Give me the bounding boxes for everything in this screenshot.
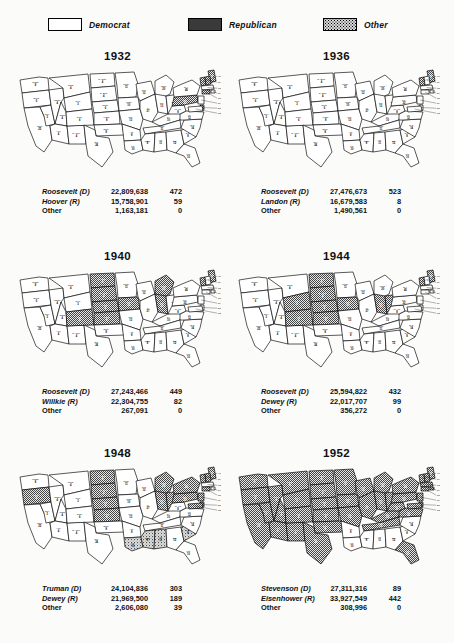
results-row: Landon (R)16,679,5838 [233, 197, 440, 207]
state-label-nj: N.J. 16 [218, 499, 221, 502]
state-label-nh: N.H. 4 [218, 81, 221, 84]
candidate-name: Other [233, 206, 307, 216]
legend-label-democrat: Democrat [89, 20, 130, 30]
results-table: Roosevelt (D)27,476,673523Landon (R)16,6… [233, 187, 440, 216]
electoral-vote: 0 [148, 206, 194, 216]
popular-vote: 27,243,466 [88, 387, 148, 397]
map-container: Wash.8Oreg.6Calif.25Nev.3Idaho4Mont.4Wyo… [233, 64, 440, 187]
state-label-de: Del. 3 [437, 504, 440, 507]
electoral-vote: 0 [367, 603, 413, 613]
results-table: Roosevelt (D)25,594,822432Dewey (R)22,01… [233, 387, 440, 416]
state-label-vt: Vt. 3 [218, 472, 221, 475]
electoral-vote: 89 [367, 584, 413, 594]
state-label-nj: N.J. 16 [437, 102, 440, 105]
results-row: Stevenson (D)27,311,31689 [233, 584, 440, 594]
popular-vote: 356,272 [307, 406, 367, 416]
popular-vote: 27,476,673 [307, 187, 367, 197]
state-label-ri: R.I. 4 [218, 489, 221, 492]
candidate-name: Roosevelt (D) [233, 187, 307, 197]
state-label-vt: Vt. 3 [218, 275, 221, 278]
electoral-vote: 82 [148, 397, 194, 407]
candidate-name: Dewey (R) [14, 594, 88, 604]
candidate-name: Other [14, 406, 88, 416]
electoral-vote: 8 [367, 197, 413, 207]
popular-vote: 22,304,755 [88, 397, 148, 407]
election-year-title: 1940 [14, 250, 221, 262]
state-label-ri: R.I. 4 [437, 92, 440, 95]
election-year-title: 1952 [233, 447, 440, 459]
popular-vote: 1,490,561 [307, 206, 367, 216]
legend: Democrat Republican Other [0, 18, 454, 40]
election-map: Wash.8Oreg.6Calif.25Nev.3Idaho4Mont.4Wyo… [14, 264, 221, 387]
electoral-vote: 0 [367, 206, 413, 216]
popular-vote: 308,996 [307, 603, 367, 613]
state-label-md: Md. 8 [218, 312, 221, 315]
state-label-ri: R.I. 4 [437, 489, 440, 492]
electoral-vote: 442 [367, 594, 413, 604]
results-row: Hoover (R)15,758,90159 [14, 197, 221, 207]
results-row: Truman (D)24,104,836303 [14, 584, 221, 594]
state-label-de: Del. 3 [218, 307, 221, 310]
candidate-name: Other [14, 206, 88, 216]
candidate-name: Willkie (R) [14, 397, 88, 407]
map-container: Wash.8Oreg.6Calif.25Nev.3Idaho4Mont.4Wyo… [233, 264, 440, 387]
state-az [269, 124, 288, 144]
state-label-nh: N.H. 4 [218, 478, 221, 481]
election-year-title: 1948 [14, 447, 221, 459]
electoral-vote: 99 [367, 397, 413, 407]
election-map: Wash.8Oreg.6Calif.25Nev.3Idaho4Mont.4Wyo… [233, 264, 440, 387]
candidate-name: Eisenhower (R) [233, 594, 307, 604]
popular-vote: 16,679,583 [307, 197, 367, 207]
election-map: Wash.8Oreg.6Calif.25Nev.3Idaho4Mont.4Wyo… [233, 461, 440, 584]
state-label-vt: Vt. 3 [437, 75, 440, 78]
state-label-md: Md. 8 [437, 509, 440, 512]
popular-vote: 33,927,549 [307, 594, 367, 604]
legend-item-democrat: Democrat [48, 18, 130, 31]
state-label-md: Md. 8 [218, 509, 221, 512]
candidate-name: Hoover (R) [14, 197, 88, 207]
state-label-ma: Mass. 16 [437, 484, 440, 487]
legend-swatch-democrat-icon [48, 18, 82, 31]
legend-swatch-republican-icon [188, 18, 222, 31]
state-label-ma: Mass. 16 [218, 87, 221, 90]
state-label-nj: N.J. 16 [218, 102, 221, 105]
results-row: Roosevelt (D)25,594,822432 [233, 387, 440, 397]
results-row: Other2,606,08039 [14, 603, 221, 613]
results-row: Willkie (R)22,304,75582 [14, 397, 221, 407]
state-label-vt: Vt. 3 [437, 275, 440, 278]
state-label-ma: Mass. 16 [218, 287, 221, 290]
electoral-vote: 189 [148, 594, 194, 604]
results-row: Dewey (R)21,969,500189 [14, 594, 221, 604]
state-label-ct: Conn. 8 [437, 494, 440, 497]
state-label-ct: Conn. 8 [218, 297, 221, 300]
electoral-vote: 303 [148, 584, 194, 594]
state-label-nh: N.H. 4 [437, 478, 440, 481]
state-label-de: Del. 3 [437, 307, 440, 310]
state-label-nj: N.J. 16 [437, 302, 440, 305]
state-az [50, 521, 69, 541]
state-az [50, 324, 69, 344]
electoral-vote: 523 [367, 187, 413, 197]
state-label-vt: Vt. 3 [437, 472, 440, 475]
electoral-vote: 39 [148, 603, 194, 613]
results-row: Other1,490,5610 [233, 206, 440, 216]
candidate-name: Other [14, 603, 88, 613]
state-label-ri: R.I. 4 [218, 92, 221, 95]
election-panel-1936: 1936Wash.8Oreg.6Calif.25Nev.3Idaho4Mont.… [233, 50, 440, 246]
election-panel-1952: 1952Wash.8Oreg.6Calif.25Nev.3Idaho4Mont.… [233, 447, 440, 643]
state-label-ct: Conn. 8 [218, 97, 221, 100]
map-container: Wash.8Oreg.6Calif.25Nev.3Idaho4Mont.4Wyo… [14, 64, 221, 187]
results-table: Truman (D)24,104,836303Dewey (R)21,969,5… [14, 584, 221, 613]
election-year-title: 1932 [14, 50, 221, 62]
state-label-vt: Vt. 3 [218, 75, 221, 78]
map-container: Wash.8Oreg.6Calif.25Nev.3Idaho4Mont.4Wyo… [14, 264, 221, 387]
results-row: Roosevelt (D)27,476,673523 [233, 187, 440, 197]
results-row: Roosevelt (D)22,809,638472 [14, 187, 221, 197]
state-label-de: Del. 3 [437, 107, 440, 110]
election-year-title: 1936 [233, 50, 440, 62]
election-map: Wash.8Oreg.6Calif.25Nev.3Idaho4Mont.4Wyo… [14, 64, 221, 187]
results-row: Other308,9960 [233, 603, 440, 613]
popular-vote: 22,809,638 [88, 187, 148, 197]
popular-vote: 22,017,707 [307, 397, 367, 407]
popular-vote: 2,606,080 [88, 603, 148, 613]
